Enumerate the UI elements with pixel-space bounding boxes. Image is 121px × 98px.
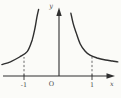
x-tick-label-pos-1: 1 <box>90 81 94 89</box>
curve-right-branch <box>71 13 118 62</box>
y-axis-arrowhead-icon <box>56 8 61 17</box>
x-tick-label-neg-1: -1 <box>21 81 27 89</box>
function-graph-figure: y x O -1 1 <box>0 0 121 98</box>
x-axis-label: x <box>110 80 114 88</box>
y-axis-label: y <box>48 2 53 10</box>
origin-label: O <box>49 80 54 88</box>
graph-canvas: y x O -1 1 <box>0 0 121 98</box>
curve-left-branch <box>2 10 39 65</box>
x-axis-arrowhead-icon <box>107 73 116 78</box>
